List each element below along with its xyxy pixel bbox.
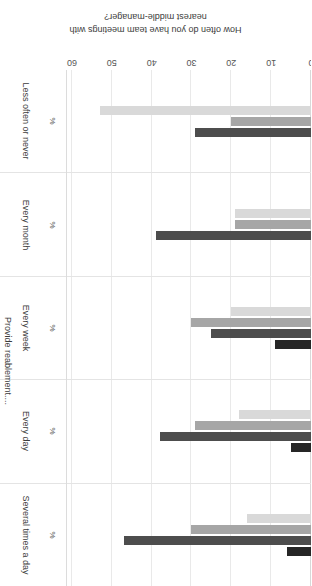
tick-label-50: 50	[107, 58, 117, 68]
bar	[195, 128, 311, 137]
category-label: Every week	[21, 305, 31, 352]
bar-chart: Several times a day%Every day%Every week…	[0, 0, 311, 586]
plot-area: Several times a day%Every day%Every week…	[0, 70, 311, 586]
category-label-cell: Less often or never%	[0, 70, 66, 173]
category-label-cell: Several times a day%	[0, 484, 66, 586]
category-label-column: Several times a day%Every day%Every week…	[0, 70, 67, 586]
tick-label-60: 60	[67, 58, 77, 68]
bar	[231, 117, 311, 126]
unit-label: %	[48, 118, 57, 125]
chart-title-line-2: nearest middle-manager?	[104, 10, 207, 23]
bar	[239, 410, 311, 419]
tick-label-20: 20	[226, 58, 236, 68]
bar	[231, 307, 311, 316]
category-label: Less often or never	[21, 83, 31, 160]
bar	[287, 547, 311, 556]
bar	[275, 340, 311, 349]
bar	[211, 329, 311, 338]
unit-label: %	[48, 221, 57, 228]
bar	[156, 231, 311, 240]
bar	[247, 514, 311, 523]
unit-label: %	[48, 531, 57, 538]
outer-group-label: Provide reablement....	[3, 317, 13, 405]
bar	[160, 432, 311, 441]
bar	[192, 318, 312, 327]
tick-label-10: 10	[266, 58, 276, 68]
tick-label-40: 40	[147, 58, 157, 68]
bar	[100, 106, 311, 115]
value-axis: 0102030405060	[0, 46, 311, 70]
chart-title: How often do you have team meetings with…	[0, 0, 311, 46]
bar	[291, 443, 311, 452]
chart-title-line-1: How often do you have team meetings with	[69, 23, 241, 36]
bar	[235, 209, 311, 218]
unit-label: %	[48, 428, 57, 435]
bar	[195, 421, 311, 430]
rotated-chart-canvas: Several times a day%Every day%Every week…	[0, 0, 311, 586]
category-label-cell: Every month%	[0, 173, 66, 276]
bar	[124, 536, 311, 545]
bar	[192, 525, 312, 534]
unit-label: %	[48, 324, 57, 331]
category-label: Several times a day	[21, 495, 31, 574]
bar	[235, 220, 311, 229]
tick-label-0: 0	[308, 58, 311, 68]
tick-label-30: 30	[186, 58, 196, 68]
category-label-cell: Every week%Provide reablement....	[0, 277, 66, 380]
category-label: Every day	[21, 411, 31, 451]
category-label: Every month	[21, 199, 31, 250]
